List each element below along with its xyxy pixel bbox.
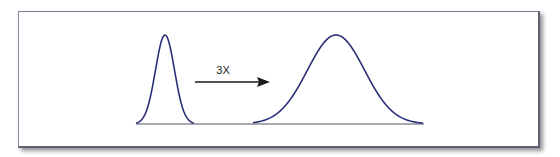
- narrow-distribution-curve: [136, 35, 194, 123]
- wide-distribution-curve: [253, 35, 423, 123]
- broadening-arrow: [195, 77, 270, 87]
- scale-factor-label: 3X: [216, 64, 230, 76]
- diagram-canvas: 3X: [0, 0, 560, 157]
